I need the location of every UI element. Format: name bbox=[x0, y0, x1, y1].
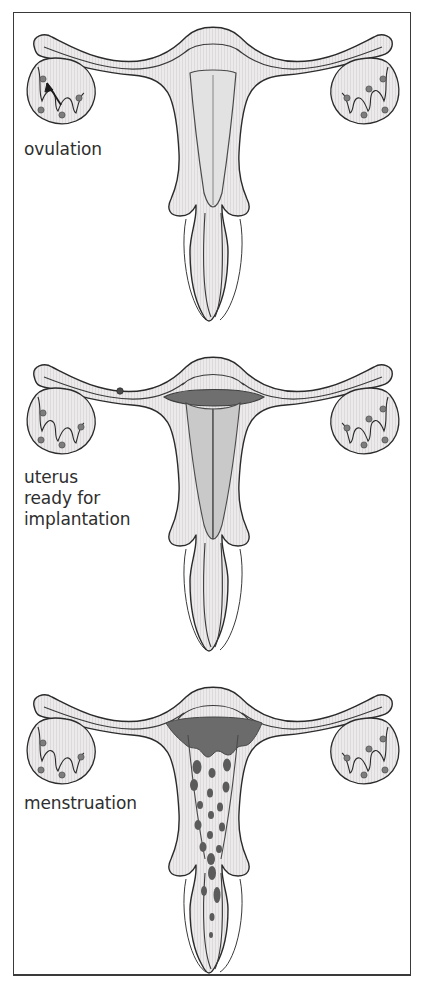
follicle bbox=[59, 772, 65, 778]
ovary-left bbox=[27, 388, 95, 454]
blood-fragment bbox=[207, 831, 213, 839]
follicle bbox=[38, 437, 44, 443]
ovary-right bbox=[331, 388, 399, 454]
follicle bbox=[382, 767, 388, 773]
blood-fragment bbox=[200, 842, 207, 852]
follicle bbox=[380, 406, 386, 412]
menstruation-diagram bbox=[14, 673, 412, 977]
blood-droplet bbox=[201, 886, 207, 896]
blood-fragment bbox=[219, 823, 225, 832]
follicle bbox=[59, 112, 65, 118]
blood-fragment bbox=[223, 759, 231, 772]
follicle bbox=[361, 442, 367, 448]
ovary-left bbox=[27, 718, 95, 784]
blood-fragment bbox=[193, 760, 202, 774]
follicle bbox=[361, 772, 367, 778]
blood-fragment bbox=[197, 801, 203, 809]
blood-fragment bbox=[207, 789, 213, 798]
blood-fragment bbox=[209, 768, 216, 778]
follicle bbox=[78, 424, 84, 430]
follicle bbox=[40, 76, 46, 82]
follicle bbox=[380, 736, 386, 742]
implantation-diagram bbox=[14, 343, 412, 673]
follicle bbox=[40, 740, 46, 746]
blood-fragment bbox=[190, 779, 198, 791]
follicle bbox=[59, 442, 65, 448]
follicle bbox=[38, 107, 44, 113]
follicle bbox=[382, 107, 388, 113]
follicle bbox=[38, 767, 44, 773]
ovum-in-tube bbox=[117, 388, 123, 394]
ovulation-diagram bbox=[14, 13, 412, 343]
follicle bbox=[366, 746, 372, 752]
figure-frame: ovulation bbox=[13, 12, 411, 976]
panel-implantation: uterus ready for implantation bbox=[14, 343, 412, 673]
follicle bbox=[76, 95, 82, 101]
follicle bbox=[344, 95, 350, 101]
follicle bbox=[380, 76, 386, 82]
ovary-right bbox=[331, 718, 399, 784]
follicle bbox=[366, 416, 372, 422]
follicle bbox=[344, 755, 350, 761]
blood-fragment bbox=[216, 845, 222, 853]
follicle bbox=[382, 437, 388, 443]
follicle bbox=[361, 112, 367, 118]
blood-fragment bbox=[223, 782, 230, 793]
panel-menstruation: menstruation bbox=[14, 673, 412, 977]
ovary-right bbox=[331, 58, 399, 124]
blood-fragment bbox=[217, 803, 223, 812]
follicle bbox=[366, 86, 372, 92]
blood-fragment bbox=[207, 853, 215, 865]
blood-droplet bbox=[214, 887, 221, 903]
blood-droplet bbox=[210, 913, 215, 921]
follicle bbox=[344, 425, 350, 431]
blood-fragment bbox=[208, 811, 214, 819]
blood-droplet bbox=[208, 866, 216, 880]
figure-root: ovulation bbox=[0, 0, 423, 988]
blood-droplet bbox=[209, 932, 213, 938]
blood-fragment bbox=[195, 820, 202, 830]
panel-ovulation: ovulation bbox=[14, 13, 412, 343]
ovary-left bbox=[27, 58, 95, 124]
follicle bbox=[78, 754, 84, 760]
follicle bbox=[40, 410, 46, 416]
